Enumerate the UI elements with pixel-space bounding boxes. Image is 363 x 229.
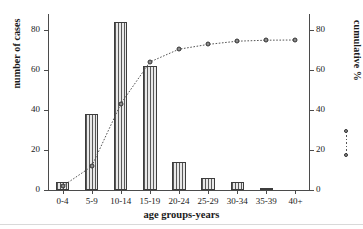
cumulative-point-25-29 — [206, 42, 211, 47]
legend-marker-dot-icon — [344, 153, 348, 157]
x-tick — [121, 191, 122, 194]
x-tick — [237, 191, 238, 194]
y-tick-label-right: 60 — [316, 65, 342, 74]
legend-marker-dot-icon — [344, 129, 348, 133]
cumulative-point-10-14 — [118, 101, 123, 106]
cumulative-point-35-39 — [264, 38, 269, 43]
x-tick — [92, 191, 93, 194]
y-tick-label-right: 0 — [316, 185, 342, 194]
x-tick-label: 0-4 — [57, 196, 69, 206]
y-axis-left-title: number of cases — [11, 0, 22, 114]
x-tick-label: 25-29 — [198, 196, 219, 206]
cumulative-line-path — [63, 40, 296, 186]
x-tick — [208, 191, 209, 194]
x-tick-label: 10-14 — [110, 196, 131, 206]
x-tick-label: 15-19 — [139, 196, 160, 206]
y-tick-right — [310, 110, 314, 111]
x-tick-label: 30-34 — [227, 196, 248, 206]
legend-dotted-line-icon — [346, 132, 347, 154]
cumulative-legend-marker — [344, 128, 348, 158]
cumulative-point-20-24 — [177, 47, 182, 52]
figure-bottom-rule — [0, 224, 363, 225]
y-tick-label-left: 60 — [14, 65, 40, 74]
chart-figure: number of cases cumulative % age groups-… — [0, 0, 363, 229]
x-tick-label: 5-9 — [86, 196, 98, 206]
x-tick — [295, 191, 296, 194]
y-tick-label-right: 80 — [316, 25, 342, 34]
x-tick — [150, 191, 151, 194]
cumulative-point-0-4 — [60, 184, 65, 189]
y-tick-label-right: 20 — [316, 145, 342, 154]
cumulative-point-15-19 — [147, 60, 152, 65]
x-tick — [179, 191, 180, 194]
x-tick-label: 40+ — [288, 196, 302, 206]
cumulative-point-5-9 — [89, 164, 94, 169]
y-tick-right — [310, 70, 314, 71]
x-axis-title: age groups-years — [0, 209, 363, 220]
y-tick-right — [310, 150, 314, 151]
cumulative-point-30-34 — [235, 39, 240, 44]
y-tick-label-left: 40 — [14, 105, 40, 114]
y-tick-label-right: 40 — [316, 105, 342, 114]
y-tick-right — [310, 190, 314, 191]
y-tick-label-left: 0 — [14, 185, 40, 194]
x-tick — [266, 191, 267, 194]
plot-area: 020406080 020406080 0-45-910-1415-1920-2… — [48, 14, 310, 190]
cumulative-line-series — [48, 14, 310, 191]
y-tick-label-left: 80 — [14, 25, 40, 34]
y-tick-label-left: 20 — [14, 145, 40, 154]
x-tick-label: 35-39 — [256, 196, 277, 206]
x-tick — [63, 191, 64, 194]
y-tick-right — [310, 30, 314, 31]
cumulative-point-40+ — [293, 38, 298, 43]
y-axis-right-title: cumulative % — [352, 0, 363, 111]
x-tick-label: 20-24 — [169, 196, 190, 206]
